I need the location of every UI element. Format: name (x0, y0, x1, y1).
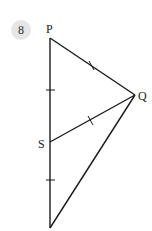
triangle-diagram (0, 0, 152, 231)
tick-pq (89, 61, 94, 70)
label-s: S (38, 138, 45, 150)
segment-qr (50, 95, 135, 228)
label-q: Q (138, 90, 147, 102)
segment-sq (50, 95, 135, 142)
label-p: P (46, 23, 53, 35)
